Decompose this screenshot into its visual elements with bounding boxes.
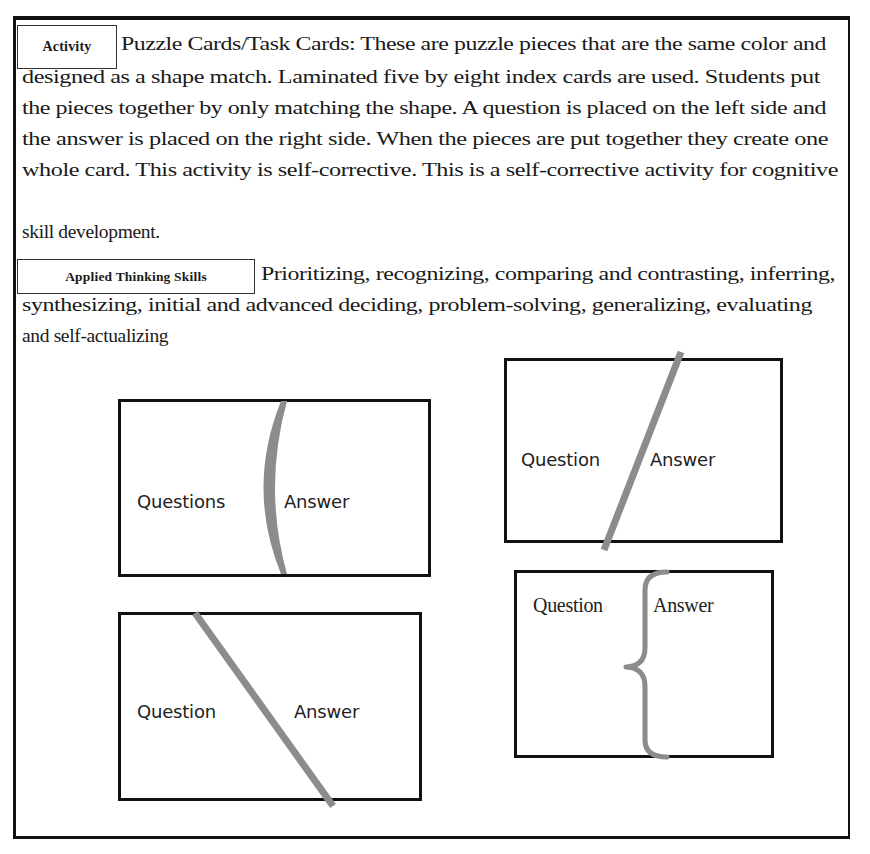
card-question-label: Question bbox=[521, 451, 600, 469]
activity-line-3: the pieces together by only matching the… bbox=[22, 98, 826, 118]
card-question-label: Questions bbox=[137, 493, 225, 511]
skills-line-3: and self-actualizing bbox=[22, 326, 168, 346]
applied-thinking-skills-label-text: Applied Thinking Skills bbox=[65, 269, 207, 285]
activity-line-1: Puzzle Cards/Task Cards: These are puzzl… bbox=[121, 34, 826, 54]
card-answer-label: Answer bbox=[294, 703, 359, 721]
activity-line-5: whole card. This activity is self-correc… bbox=[22, 160, 838, 180]
card-answer-label: Answer bbox=[284, 493, 349, 511]
activity-label-text: Activity bbox=[42, 39, 91, 55]
applied-thinking-skills-label: Applied Thinking Skills bbox=[17, 259, 255, 294]
card-question-label: Question bbox=[533, 595, 603, 615]
activity-line-2: designed as a shape match. Laminated fiv… bbox=[22, 67, 820, 87]
card-answer-label: Answer bbox=[653, 595, 713, 615]
activity-line-6: skill development. bbox=[22, 222, 160, 242]
activity-line-4: the answer is placed on the right side. … bbox=[22, 129, 828, 149]
skills-line-2: synthesizing, initial and advanced decid… bbox=[22, 295, 812, 315]
activity-label: Activity bbox=[17, 25, 117, 69]
card-question-label: Question bbox=[137, 703, 216, 721]
curved-divider-card bbox=[118, 399, 431, 577]
skills-line-1: Prioritizing, recognizing, comparing and… bbox=[261, 264, 835, 284]
card-answer-label: Answer bbox=[650, 451, 715, 469]
